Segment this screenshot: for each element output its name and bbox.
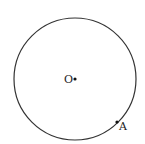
point-o-dot [73, 77, 76, 80]
point-o-label: O [64, 73, 73, 86]
point-a-label: A [118, 120, 128, 133]
circle-diagram: O A [0, 0, 145, 144]
